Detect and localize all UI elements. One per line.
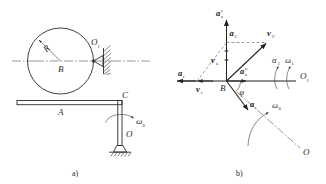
label-omega-1: ω 1 — [285, 55, 295, 66]
rotation-arcs-right — [275, 67, 291, 90]
ground-support — [109, 146, 131, 157]
caption-a: a) — [72, 169, 79, 178]
label-omega0-a: ω 0 — [136, 116, 146, 128]
svg-text:v: v — [267, 28, 271, 38]
label-vector-a-e: a e — [250, 99, 257, 110]
svg-text:ω: ω — [136, 116, 142, 126]
label-vector-v-r: v r — [196, 84, 203, 95]
svg-text:α: α — [272, 55, 277, 65]
vector-a-e — [227, 81, 249, 110]
svg-text:r: r — [183, 74, 185, 79]
svg-text:v: v — [211, 55, 215, 65]
axis-lower-right-b — [237, 92, 300, 148]
vertical-post — [118, 101, 122, 146]
svg-text:a: a — [245, 72, 247, 77]
svg-text:ω: ω — [272, 100, 278, 110]
label-bearing-O1: O 1 — [91, 37, 100, 49]
svg-text:n: n — [245, 66, 248, 71]
label-axis-O1: O 1 — [300, 71, 309, 83]
svg-text:a: a — [216, 61, 218, 66]
label-wheel-center-B: B — [58, 64, 64, 74]
label-vector-a-C: a C — [230, 28, 238, 39]
svg-text:ω: ω — [285, 55, 291, 65]
label-vector-a-a-n: a a n — [240, 66, 248, 77]
svg-text:1: 1 — [292, 61, 295, 66]
svg-text:1: 1 — [278, 61, 281, 66]
label-axis-O: O — [303, 147, 310, 157]
label-radius-R: R — [40, 43, 52, 55]
label-angle-phi: φ — [240, 87, 245, 97]
svg-text:v: v — [196, 84, 200, 94]
label-alpha-1: α 1 — [272, 55, 281, 66]
figure-canvas: R B O 1 A C O ω 0 a) — [0, 0, 326, 184]
svg-text:1: 1 — [98, 44, 100, 49]
horizontal-bar — [17, 101, 122, 105]
svg-text:r: r — [201, 90, 203, 95]
svg-text:C: C — [272, 34, 275, 39]
label-vector-v-C: v C — [267, 28, 275, 39]
svg-text:0: 0 — [279, 106, 282, 111]
label-omega-0-b: ω 0 — [272, 100, 282, 111]
mechanics-figure: R B O 1 A C O ω 0 a) — [0, 0, 326, 184]
label-corner-point-C: C — [122, 90, 129, 100]
bearing-support-O1 — [92, 46, 110, 75]
svg-text:C: C — [235, 34, 238, 39]
rotation-arrow-omega0 — [106, 114, 134, 122]
svg-text:1: 1 — [307, 78, 309, 83]
caption-b: b) — [236, 169, 243, 178]
svg-text:a: a — [221, 14, 223, 19]
label-vector-a-a-t: a a t — [216, 8, 223, 19]
label-origin-B: B — [220, 83, 226, 93]
label-vector-v-a: v a — [211, 55, 218, 66]
svg-text:e: e — [255, 105, 257, 110]
panel-b: a a t a C v C v a v r — [177, 8, 310, 179]
label-pivot-O: O — [126, 129, 133, 139]
svg-text:t: t — [221, 8, 223, 13]
label-vector-a-r: a r — [178, 68, 185, 79]
panel-a: R B O 1 A C O ω 0 a) — [12, 28, 152, 178]
label-bar-point-A: A — [57, 107, 64, 117]
svg-text:0: 0 — [143, 123, 146, 128]
